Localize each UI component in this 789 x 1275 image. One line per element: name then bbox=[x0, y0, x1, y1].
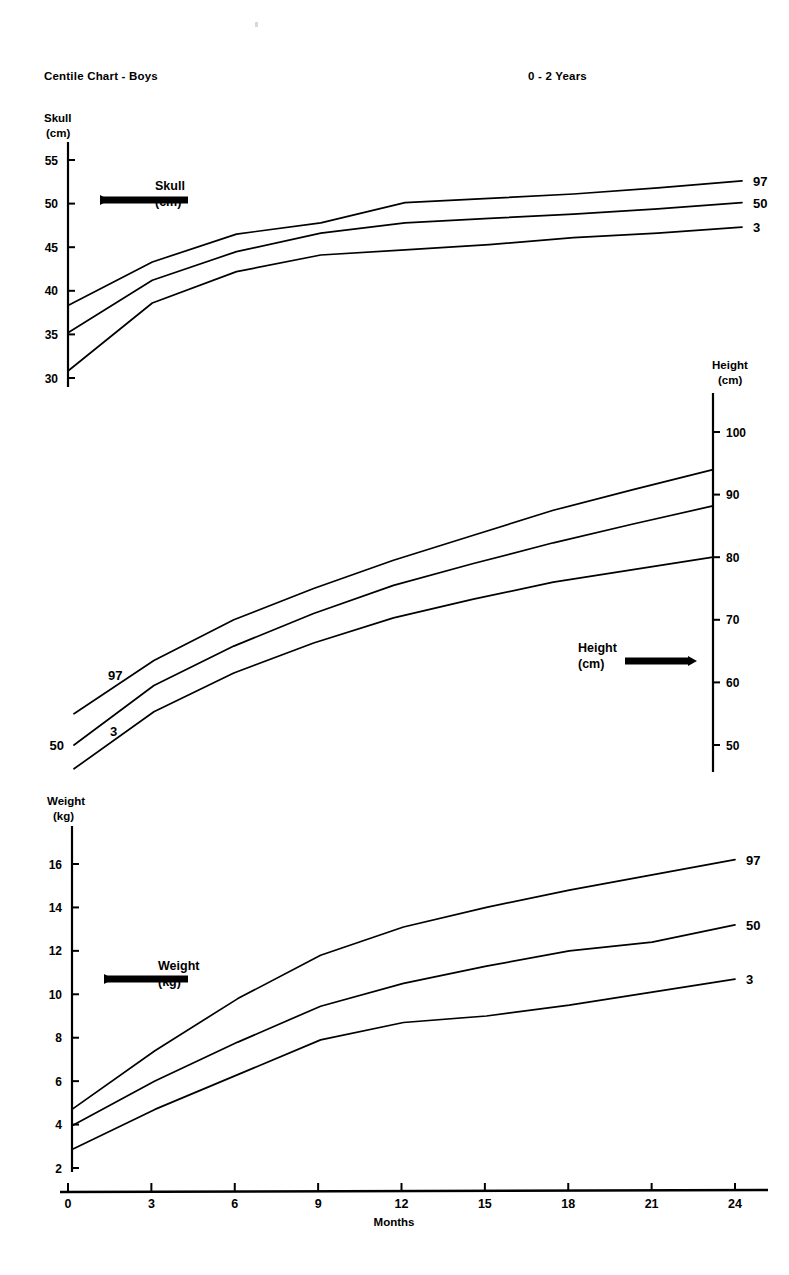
centile-label-97: 97 bbox=[108, 668, 122, 683]
weight-centile-labels: 97503 bbox=[746, 853, 760, 987]
y-tick-label: 70 bbox=[726, 613, 740, 627]
skull-axis-title-line2: (cm) bbox=[46, 127, 70, 139]
height-axis-title-line2: (cm) bbox=[718, 374, 742, 386]
x-tick-label: 6 bbox=[231, 1197, 238, 1211]
y-tick-label: 80 bbox=[726, 551, 740, 565]
x-tick-label: 3 bbox=[148, 1197, 155, 1211]
y-tick-label: 6 bbox=[55, 1075, 62, 1089]
height-centile-curves bbox=[74, 470, 713, 769]
height-arrow-label-line2: (cm) bbox=[578, 657, 604, 671]
y-tick-label: 14 bbox=[49, 901, 63, 915]
y-tick-label: 55 bbox=[45, 154, 59, 168]
y-tick-label: 45 bbox=[45, 241, 59, 255]
x-tick-label: 24 bbox=[728, 1197, 742, 1211]
centile-label-50: 50 bbox=[746, 918, 760, 933]
y-tick-label: 35 bbox=[45, 328, 59, 342]
skull-arrow-label-line1: Skull bbox=[155, 179, 185, 193]
x-axis-line bbox=[60, 1190, 768, 1192]
centile-label-97: 97 bbox=[753, 174, 767, 189]
weight-axis-title-line2: (kg) bbox=[53, 810, 74, 822]
centile-curve-50 bbox=[72, 925, 735, 1126]
y-tick-label: 8 bbox=[55, 1031, 62, 1045]
y-tick-label: 100 bbox=[726, 426, 746, 440]
weight-arrow-label-line1: Weight bbox=[158, 959, 200, 973]
y-tick-label: 4 bbox=[55, 1118, 62, 1132]
skull-centile-labels: 97503 bbox=[753, 174, 767, 235]
centile-curve-3 bbox=[72, 979, 735, 1149]
centile-label-50: 50 bbox=[50, 738, 64, 753]
x-tick-label: 18 bbox=[561, 1197, 575, 1211]
centile-curve-50 bbox=[68, 203, 742, 333]
centile-label-97: 97 bbox=[746, 853, 760, 868]
centile-label-3: 3 bbox=[110, 724, 117, 739]
skull-arrow-label-line2: (cm) bbox=[155, 195, 181, 209]
x-tick-label: 15 bbox=[478, 1197, 492, 1211]
centile-chart-canvas: Skull (cm) 303540455055 97503 Skull (cm)… bbox=[0, 0, 789, 1275]
height-panel: Height (cm) 5060708090100 97503 Height (… bbox=[50, 359, 748, 772]
skull-panel: Skull (cm) 303540455055 97503 Skull (cm) bbox=[44, 112, 767, 387]
weight-axis-title-line1: Weight bbox=[47, 795, 85, 807]
skull-y-axis-ticks: 303540455055 bbox=[45, 154, 75, 386]
y-tick-label: 90 bbox=[726, 488, 740, 502]
months-x-axis: 03691215182124 Months bbox=[60, 1183, 768, 1228]
centile-curve-3 bbox=[74, 557, 713, 769]
weight-arrow-label-line2: (kg) bbox=[158, 975, 181, 989]
x-tick-label: 12 bbox=[395, 1197, 409, 1211]
x-tick-label: 0 bbox=[65, 1197, 72, 1211]
weight-y-axis-ticks: 246810121416 bbox=[49, 858, 79, 1176]
x-tick-label: 9 bbox=[315, 1197, 322, 1211]
centile-label-3: 3 bbox=[753, 220, 760, 235]
x-axis-ticks: 03691215182124 bbox=[65, 1183, 742, 1211]
x-axis-title: Months bbox=[374, 1216, 415, 1228]
y-tick-label: 2 bbox=[55, 1162, 62, 1176]
height-y-axis-ticks: 5060708090100 bbox=[713, 426, 746, 753]
height-arrow-label-line1: Height bbox=[578, 641, 618, 655]
height-axis-title-line1: Height bbox=[712, 359, 748, 371]
weight-centile-curves bbox=[72, 860, 735, 1150]
y-tick-label: 12 bbox=[49, 944, 63, 958]
y-tick-label: 16 bbox=[49, 858, 63, 872]
centile-label-50: 50 bbox=[753, 196, 767, 211]
skull-axis-title-line1: Skull bbox=[44, 112, 71, 124]
y-tick-label: 50 bbox=[45, 197, 59, 211]
centile-label-3: 3 bbox=[746, 972, 753, 987]
x-tick-label: 21 bbox=[645, 1197, 659, 1211]
y-tick-label: 60 bbox=[726, 676, 740, 690]
y-tick-label: 30 bbox=[45, 372, 59, 386]
y-tick-label: 10 bbox=[49, 988, 63, 1002]
y-tick-label: 40 bbox=[45, 284, 59, 298]
height-centile-labels: 97503 bbox=[50, 668, 123, 753]
centile-curve-3 bbox=[68, 227, 742, 371]
y-tick-label: 50 bbox=[726, 739, 740, 753]
weight-panel: Weight (kg) 246810121416 97503 Weight (k… bbox=[47, 795, 760, 1176]
centile-curve-50 bbox=[74, 506, 713, 745]
skull-centile-curves bbox=[68, 181, 742, 371]
